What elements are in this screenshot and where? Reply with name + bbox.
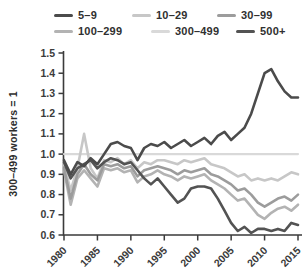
axes-lines <box>64 51 303 235</box>
x-tick-label: 1990 <box>111 244 136 269</box>
y-tick-label: 0.9 <box>40 168 55 180</box>
x-tick-label: 2010 <box>244 244 269 269</box>
plot-area: 1.51.41.31.21.11.00.90.80.70.61980198519… <box>0 0 308 277</box>
x-tick-label: 1985 <box>77 244 102 269</box>
y-tick-label: 1.5 <box>40 47 55 59</box>
x-tick-label: 2000 <box>178 244 203 269</box>
y-tick-label: 0.6 <box>40 229 55 241</box>
firm-size-line-chart: 5–9 10–29 30–99 100–299 300–499 500+ 300… <box>0 0 308 277</box>
series-line-5–9 <box>64 69 298 174</box>
x-tick-label: 1980 <box>44 244 69 269</box>
x-tick-label: 2005 <box>211 244 236 269</box>
y-tick-label: 1.3 <box>40 87 55 99</box>
x-tick-label: 1995 <box>144 244 169 269</box>
y-tick-label: 0.7 <box>40 208 55 220</box>
x-tick-label: 2015 <box>278 244 303 269</box>
y-tick-label: 0.8 <box>40 188 55 200</box>
y-tick-label: 1.4 <box>40 67 55 79</box>
y-tick-label: 1.2 <box>40 107 55 119</box>
y-tick-label: 1.1 <box>40 127 55 139</box>
y-tick-label: 1.0 <box>40 148 55 160</box>
series-line-500+ <box>64 158 298 233</box>
